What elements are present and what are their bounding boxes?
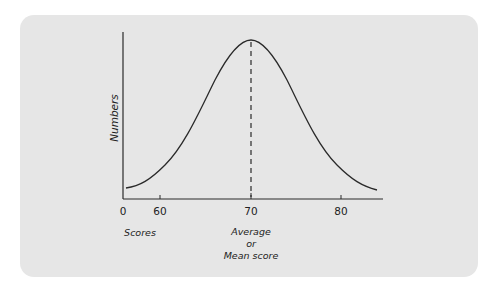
mean-label-line2: or	[246, 238, 257, 249]
tick-label-60: 60	[153, 205, 166, 217]
tick-label-70: 70	[244, 205, 257, 217]
y-axis-label: Numbers	[108, 94, 120, 142]
mean-label-line1: Average	[230, 226, 271, 237]
mean-label-line3: Mean score	[224, 250, 279, 261]
tick-label-0: 0	[120, 205, 127, 217]
tick-label-80: 80	[334, 205, 347, 217]
normal-distribution-diagram: Numbers 0 60 70 80 Scores Average or Mea…	[0, 0, 496, 293]
x-axis-label: Scores	[124, 227, 156, 238]
